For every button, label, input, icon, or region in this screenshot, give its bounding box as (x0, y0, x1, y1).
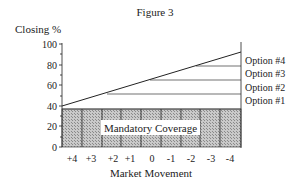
legend-option-1: Option #1 (245, 95, 285, 106)
y-tick-labels: 100 80 60 40 20 0 (42, 39, 57, 153)
x-tick-label: -1 (167, 153, 175, 164)
y-tick-label: 20 (47, 121, 57, 132)
y-tick-label: 80 (47, 60, 57, 71)
chart-canvas: Figure 3 Closing % Market Movement Manda… (0, 0, 303, 188)
y-tick-label: 60 (47, 80, 57, 91)
option-lines (62, 66, 241, 109)
x-tick-label: -4 (226, 153, 234, 164)
mandatory-coverage-region: Mandatory Coverage (62, 109, 241, 147)
legend: Option #4 Option #3 Option #2 Option #1 (245, 55, 285, 106)
y-axis-label: Closing % (15, 23, 61, 35)
x-tick-label: +2 (108, 153, 119, 164)
y-tick-label: 40 (47, 101, 57, 112)
mandatory-coverage-label: Mandatory Coverage (104, 122, 197, 134)
x-tick-label: -2 (187, 153, 195, 164)
x-tick-label: 0 (150, 153, 155, 164)
x-tick-label: +1 (125, 153, 136, 164)
chart-title: Figure 3 (137, 6, 174, 18)
y-axis (59, 43, 62, 147)
legend-option-2: Option #2 (245, 82, 285, 93)
y-tick-label: 0 (52, 142, 57, 153)
x-tick-label: -3 (207, 153, 215, 164)
closing-percent-line (62, 52, 241, 106)
x-tick-label: +4 (67, 153, 78, 164)
x-axis-label: Market Movement (110, 167, 192, 179)
x-tick-labels: +4 +3 +2 +1 0 -1 -2 -3 -4 (67, 153, 234, 164)
legend-option-3: Option #3 (245, 68, 285, 79)
x-tick-label: +3 (86, 153, 97, 164)
y-tick-label: 100 (42, 39, 57, 50)
legend-option-4: Option #4 (245, 55, 285, 66)
